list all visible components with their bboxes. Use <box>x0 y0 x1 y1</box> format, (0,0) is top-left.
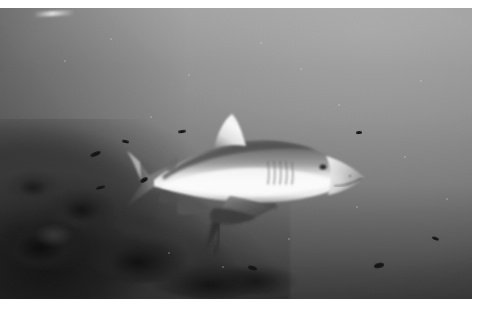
photograph-image <box>0 8 472 299</box>
film-grain <box>0 8 472 299</box>
photograph-frame <box>0 0 477 310</box>
